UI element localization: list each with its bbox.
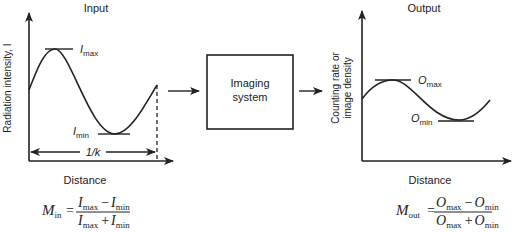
formula-numerator: Imax−Imin [77,195,130,212]
omin-label: Omin [411,112,432,127]
period-label: 1/k [86,146,101,158]
output-y-label-line2: image density [342,57,353,119]
system-label-line1: Imaging [230,77,269,89]
formula-lhs: Mout [395,202,421,220]
output-title: Output [407,2,440,14]
equals-sign: = [427,203,435,218]
formula-denominator: Omax+Omin [436,213,499,230]
input-panel: Input Radiation intensity, I Imax Imin 1… [2,2,173,230]
input-modulation-formula: Min = Imax−Imin Imax+Imin [41,195,130,230]
output-y-label-line1: Counting rate or [330,51,341,123]
input-y-label: Radiation intensity, I [2,43,13,132]
formula-numerator: Omax−Omin [436,195,499,212]
formula-lhs: Min [41,202,62,220]
formula-denominator: Imax+Imin [77,213,130,230]
input-wave [29,49,157,134]
system-label-line2: system [233,91,268,103]
input-title: Input [84,2,108,14]
imax-label: Imax [80,43,98,58]
input-x-label: Distance [64,174,107,186]
modulation-transfer-diagram: Input Radiation intensity, I Imax Imin 1… [0,0,517,232]
output-x-label: Distance [409,174,452,186]
imaging-system-block: Imaging system [168,55,322,129]
equals-sign: = [66,203,74,218]
omax-label: Omax [418,74,442,89]
imin-label: Imin [73,125,89,140]
output-panel: Output Counting rate or image density Om… [330,2,511,230]
output-modulation-formula: Mout = Omax−Omin Omax+Omin [395,195,499,230]
